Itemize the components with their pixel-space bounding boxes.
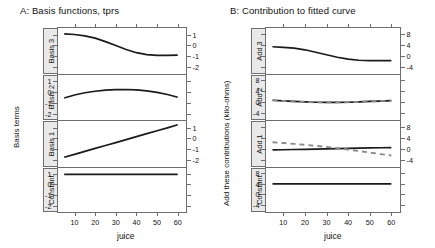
- tick-mark: [187, 174, 191, 175]
- y-ticks-l-a-1: 10-1-2: [43, 75, 57, 121]
- x-tick-label: 10: [279, 218, 287, 227]
- x-axis-top-a: [58, 23, 186, 28]
- tick-mark: [401, 102, 405, 103]
- tick-mark: [157, 212, 158, 216]
- trellis-row-a-2: Basis 110-1-2: [57, 120, 187, 167]
- y-tick-label: 1: [193, 123, 197, 132]
- tick-mark: [187, 184, 191, 185]
- tick-mark: [401, 149, 405, 150]
- tick-mark: [370, 24, 371, 28]
- panel-b-trellis-stack: Add 3840-4Add 2840-4Add 1840-4Constant84…: [265, 27, 401, 213]
- tick-mark: [187, 35, 191, 36]
- y-tick-label: 0: [256, 98, 260, 107]
- plot-area-b-3: [266, 168, 400, 213]
- y-ticks-r-b-1: [401, 75, 415, 121]
- tick-mark: [187, 195, 191, 196]
- trellis-row-b-2: Add 1840-4: [265, 120, 401, 167]
- y-ticks-l-a-3: 10-1-2: [43, 168, 57, 213]
- tick-mark: [370, 212, 371, 216]
- tick-mark: [401, 194, 405, 195]
- tick-mark: [136, 212, 137, 216]
- y-tick-label: -1: [193, 52, 199, 61]
- y-tick-label: 8: [407, 122, 411, 131]
- tick-mark: [53, 149, 57, 150]
- tick-mark: [261, 34, 265, 35]
- panel-group-a: A: Basis functions, tprs Basis terms jui…: [0, 0, 218, 248]
- x-tick-label: 30: [112, 218, 120, 227]
- tick-mark: [53, 174, 57, 175]
- y-tick-label: -2: [193, 156, 199, 165]
- x-tick-label: 30: [323, 218, 331, 227]
- tick-mark: [53, 184, 57, 185]
- y-ticks-r-a-0: 10-1-2: [187, 28, 201, 74]
- trellis-row-b-0: Add 3840-4: [265, 27, 401, 74]
- tick-mark: [53, 138, 57, 139]
- tick-mark: [178, 212, 179, 216]
- tick-mark: [261, 80, 265, 81]
- y-ticks-r-b-3: [401, 168, 415, 213]
- y-tick-label: 0: [193, 41, 197, 50]
- tick-mark: [261, 91, 265, 92]
- tick-mark: [53, 45, 57, 46]
- y-tick-label: -2: [45, 109, 51, 118]
- x-tick-label: 40: [344, 218, 352, 227]
- y-tick-label: 0: [193, 134, 197, 143]
- tick-mark: [348, 24, 349, 28]
- curve-basis-2: [64, 89, 178, 97]
- y-ticks-r-b-0: 840-4: [401, 28, 415, 74]
- plot-area-b-2: [266, 121, 400, 167]
- y-tick-label: -4: [407, 62, 413, 71]
- tick-mark: [283, 212, 284, 216]
- tick-mark: [53, 206, 57, 207]
- y-tick-label: 0: [407, 144, 411, 153]
- tick-mark: [187, 45, 191, 46]
- y-tick-label: 0: [256, 190, 260, 199]
- y-tick-label: -1: [45, 98, 51, 107]
- y-tick-label: -1: [193, 145, 199, 154]
- tick-mark: [187, 103, 191, 104]
- plot-area-a-3: [58, 168, 186, 213]
- y-ticks-r-a-2: 10-1-2: [187, 121, 201, 167]
- y-tick-label: 8: [256, 76, 260, 85]
- y-tick-label: 0: [48, 180, 52, 189]
- tick-mark: [261, 205, 265, 206]
- trellis-row-a-3: Constant10-1-2102030405060: [57, 167, 187, 214]
- tick-mark: [261, 173, 265, 174]
- y-tick-label: -4: [253, 201, 259, 210]
- tick-mark: [261, 56, 265, 57]
- tick-mark: [261, 160, 265, 161]
- tick-mark: [401, 113, 405, 114]
- tick-mark: [95, 24, 96, 28]
- tick-mark: [53, 160, 57, 161]
- x-tick-label: 50: [153, 218, 161, 227]
- plot-area-a-2: [58, 121, 186, 167]
- tick-mark: [261, 102, 265, 103]
- y-tick-label: 8: [256, 168, 260, 177]
- tick-mark: [187, 206, 191, 207]
- plot-area-a-0: [58, 28, 186, 74]
- tick-mark: [401, 205, 405, 206]
- panel-b-y-axis-label: Add these contributions (kilo-ohms): [222, 81, 231, 206]
- tick-mark: [327, 24, 328, 28]
- y-tick-label: -2: [45, 201, 51, 210]
- y-tick-label: 4: [256, 179, 260, 188]
- x-tick-label: 60: [174, 218, 182, 227]
- tick-mark: [116, 24, 117, 28]
- tick-mark: [53, 114, 57, 115]
- panel-a-trellis-stack: Basis 310-1-2Basis 210-1-2Basis 110-1-2C…: [57, 27, 187, 213]
- tick-mark: [401, 91, 405, 92]
- tick-mark: [53, 128, 57, 129]
- tick-mark: [261, 184, 265, 185]
- tick-mark: [305, 212, 306, 216]
- panel-b-title: B: Contribution to fitted curve: [230, 5, 356, 16]
- x-tick-label: 20: [91, 218, 99, 227]
- panel-a-title: A: Basis functions, tprs: [20, 5, 119, 16]
- tick-mark: [401, 56, 405, 57]
- y-ticks-l-b-1: 840-4: [251, 75, 265, 121]
- tick-mark: [327, 212, 328, 216]
- tick-mark: [187, 160, 191, 161]
- y-tick-label: 1: [48, 169, 52, 178]
- tick-mark: [401, 45, 405, 46]
- tick-mark: [261, 138, 265, 139]
- tick-mark: [116, 212, 117, 216]
